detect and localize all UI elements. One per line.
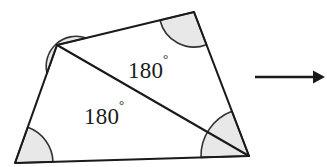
lower-triangle-angle-sum-label: 180° — [84, 97, 125, 130]
implies-arrow-icon — [255, 71, 325, 84]
angle-arc-top-right — [160, 12, 207, 47]
upper-angle-sum-degree-icon: ° — [163, 51, 168, 66]
lower-angle-sum-value: 180 — [84, 104, 119, 129]
arrow-head — [313, 71, 325, 84]
lower-angle-sum-degree-icon: ° — [119, 97, 124, 112]
upper-triangle-angle-sum-label: 180° — [128, 51, 169, 84]
quadrilateral-diagram: 180° 180° — [0, 0, 327, 167]
upper-angle-sum-value: 180 — [128, 58, 163, 83]
